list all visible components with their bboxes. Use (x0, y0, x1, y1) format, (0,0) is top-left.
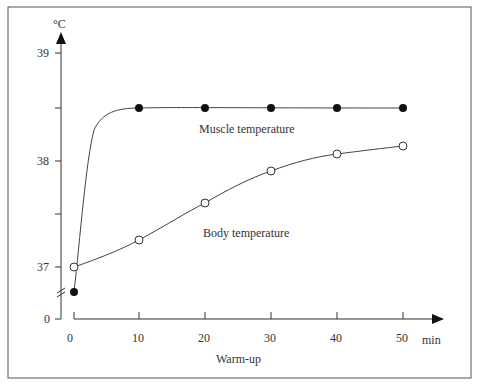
y-tick-0: 0 (44, 312, 50, 326)
muscle-point (333, 104, 341, 112)
x-tick-30: 30 (264, 331, 276, 345)
body-temperature-label: Body temperature (203, 226, 289, 240)
x-axis-arrow-icon (432, 314, 444, 324)
body-point (267, 167, 275, 175)
y-tick-38: 38 (37, 154, 49, 168)
body-point (399, 142, 407, 150)
x-tick-0: 0 (67, 331, 73, 345)
x-tick-40: 40 (330, 331, 342, 345)
body-temperature-line (74, 146, 403, 267)
body-point (135, 236, 143, 244)
muscle-point (399, 104, 407, 112)
muscle-point (267, 104, 275, 112)
x-axis-title: Warm-up (216, 352, 261, 366)
x-tick-50: 50 (396, 331, 408, 345)
muscle-temperature-label: Muscle temperature (199, 122, 295, 136)
chart: °C 39 38 37 0 0 10 20 30 40 50 min Warm-… (0, 0, 479, 385)
y-axis-arrow-icon (56, 32, 66, 44)
x-unit-label: min (422, 333, 441, 347)
chart-frame (8, 7, 471, 378)
muscle-point (135, 104, 143, 112)
body-point (70, 263, 78, 271)
y-tick-37: 37 (37, 260, 49, 274)
muscle-point (201, 104, 209, 112)
body-point (201, 199, 209, 207)
x-tick-20: 20 (198, 331, 210, 345)
body-point (333, 150, 341, 158)
y-tick-39: 39 (37, 46, 49, 60)
muscle-point (70, 288, 78, 296)
x-tick-10: 10 (132, 331, 144, 345)
y-unit-label: °C (53, 17, 66, 31)
